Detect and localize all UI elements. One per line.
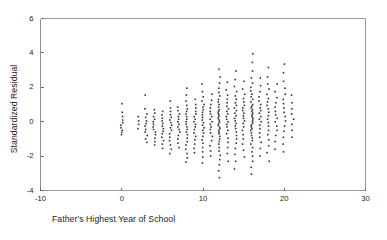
data-point [243, 115, 245, 117]
data-point [178, 116, 180, 118]
data-point [283, 103, 285, 105]
data-point [252, 112, 254, 114]
data-point [144, 131, 146, 133]
data-point [243, 118, 245, 120]
data-point [155, 131, 157, 133]
data-point [144, 125, 146, 127]
data-point [235, 95, 237, 97]
data-point [266, 93, 268, 95]
data-point [210, 132, 212, 134]
data-point [186, 153, 188, 155]
data-point [260, 85, 262, 87]
data-point [217, 112, 219, 114]
data-point [202, 96, 204, 98]
data-point [177, 110, 179, 112]
data-point [218, 143, 220, 145]
data-point [170, 111, 172, 113]
data-point [202, 109, 204, 111]
data-point [218, 104, 220, 106]
data-point [218, 99, 220, 101]
data-point [259, 155, 261, 157]
data-point [177, 126, 179, 128]
data-point [177, 142, 179, 144]
data-point [195, 107, 197, 109]
data-point [146, 135, 148, 137]
data-point [252, 123, 254, 125]
data-point [259, 118, 261, 120]
data-point [226, 126, 228, 128]
data-point [283, 107, 285, 109]
data-point [210, 150, 212, 152]
data-point [170, 107, 172, 109]
data-point [251, 151, 253, 153]
data-point [276, 97, 278, 99]
data-point [227, 147, 229, 149]
data-point [235, 161, 237, 163]
data-point [291, 102, 293, 104]
data-point [235, 148, 237, 150]
data-point [252, 82, 254, 84]
data-point [274, 148, 276, 150]
data-point [203, 104, 205, 106]
data-point [260, 77, 262, 79]
data-point [250, 124, 252, 126]
data-point [276, 118, 278, 120]
data-point [202, 111, 204, 113]
data-point [226, 118, 228, 120]
data-point [227, 94, 229, 96]
data-point [227, 99, 229, 101]
data-point [252, 62, 254, 64]
data-point [236, 135, 238, 137]
data-point [219, 154, 221, 156]
data-point [186, 111, 188, 113]
data-point [202, 136, 204, 138]
data-point [252, 121, 254, 123]
data-point [185, 144, 187, 146]
data-point [251, 105, 253, 107]
data-point [162, 118, 164, 120]
data-point [171, 124, 173, 126]
data-point [268, 115, 270, 117]
data-point [260, 116, 262, 118]
data-point [251, 137, 253, 139]
data-point [122, 130, 124, 132]
data-point [152, 126, 154, 128]
data-point [276, 125, 278, 127]
data-point [259, 124, 261, 126]
data-point [267, 83, 269, 85]
data-point [202, 130, 204, 132]
data-point [284, 116, 286, 118]
data-point [162, 111, 164, 113]
data-point [276, 83, 278, 85]
data-point [252, 118, 254, 120]
data-point [195, 124, 197, 126]
data-point [122, 122, 124, 124]
data-point [152, 121, 154, 123]
data-point [179, 131, 181, 133]
data-point [163, 128, 165, 130]
data-point [203, 122, 205, 124]
data-point [169, 133, 171, 135]
data-point [251, 116, 253, 118]
data-point [217, 118, 219, 120]
data-point [170, 117, 172, 119]
data-point [251, 111, 253, 113]
data-point [234, 120, 236, 122]
data-point [227, 121, 229, 123]
data-point [179, 113, 181, 115]
data-point [274, 121, 276, 123]
data-point [169, 136, 171, 138]
data-point [186, 116, 188, 118]
data-point [193, 148, 195, 150]
data-point [219, 121, 221, 123]
data-point [227, 153, 229, 155]
data-point [236, 91, 238, 93]
data-point [203, 132, 205, 134]
data-point [195, 126, 197, 128]
data-point [236, 138, 238, 140]
data-point [227, 142, 229, 144]
data-point [209, 145, 211, 147]
data-point [258, 100, 260, 102]
data-point [275, 111, 277, 113]
data-point [186, 94, 188, 96]
